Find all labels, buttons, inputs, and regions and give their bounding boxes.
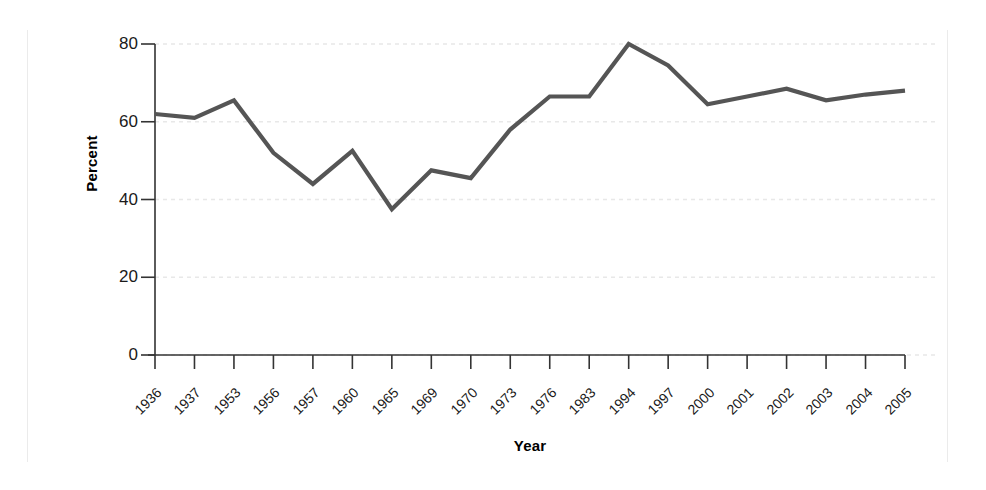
x-tick-label: 1956	[238, 384, 283, 429]
x-tick-label: 2001	[711, 384, 756, 429]
x-tick-label: 1970	[435, 384, 480, 429]
x-tick-label: 1976	[514, 384, 559, 429]
x-axis-title: Year	[155, 437, 905, 454]
x-tick-label: 2002	[751, 384, 796, 429]
x-tick-label: 2005	[869, 384, 914, 429]
x-tick-label: 1997	[633, 384, 678, 429]
y-axis-title: Percent	[83, 109, 100, 219]
x-tick-label: 1983	[554, 384, 599, 429]
x-axis-tick-labels: 1936193719531956195719601965196919701973…	[0, 0, 986, 490]
x-tick-label: 2003	[790, 384, 835, 429]
x-tick-label: 2000	[672, 384, 717, 429]
x-tick-label: 1957	[277, 384, 322, 429]
x-tick-label: 2004	[830, 384, 875, 429]
chart-figure: 020406080 193619371953195619571960196519…	[0, 0, 986, 490]
x-tick-label: 1960	[317, 384, 362, 429]
x-tick-label: 1965	[356, 384, 401, 429]
x-tick-label: 1969	[396, 384, 441, 429]
x-tick-label: 1994	[593, 384, 638, 429]
x-tick-label: 1973	[475, 384, 520, 429]
x-tick-label: 1953	[198, 384, 243, 429]
x-tick-label: 1937	[159, 384, 204, 429]
x-tick-label: 1936	[119, 384, 164, 429]
